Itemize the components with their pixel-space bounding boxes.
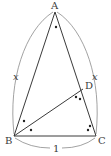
angle-mark-c-1 — [89, 125, 91, 127]
brace-bc-left — [15, 138, 50, 148]
segment-bd — [14, 89, 83, 136]
label-b: B — [5, 135, 12, 146]
angle-mark-d-2 — [79, 98, 81, 100]
angle-mark-d-1 — [75, 96, 77, 98]
label-a: A — [50, 0, 59, 11]
angle-mark-b-lower — [30, 129, 32, 131]
label-c: C — [98, 135, 106, 146]
label-side-ac: x — [92, 71, 98, 82]
angle-mark-b-upper — [23, 120, 25, 122]
label-side-ab: x — [13, 71, 19, 82]
triangle-diagram: A B C D x x 1 — [0, 0, 111, 156]
angle-mark-a — [55, 26, 57, 28]
angle-mark-c-2 — [87, 129, 89, 131]
arc-ab — [13, 12, 53, 134]
brace-bc-right — [62, 138, 95, 148]
label-side-bc: 1 — [53, 143, 59, 154]
